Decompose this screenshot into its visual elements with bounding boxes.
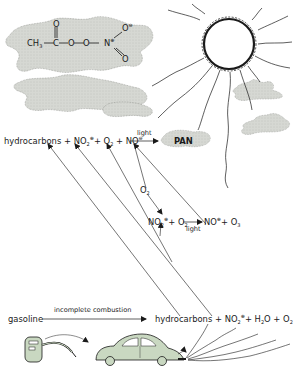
hydrocarbons-label: hydrocarbons bbox=[4, 136, 61, 146]
o2-label: O2 bbox=[283, 314, 293, 324]
middle-reaction-products: NO⊕+ O3 bbox=[204, 218, 241, 226]
exhaust-fumes-icon bbox=[178, 324, 290, 361]
gas-pump-icon bbox=[25, 335, 88, 362]
bottom-reaction-products: hydrocarbons + NO2⊕+ H2O + O2 bbox=[155, 315, 293, 323]
car-icon bbox=[96, 334, 186, 366]
pan-oxygen-2: O bbox=[83, 39, 90, 47]
pan-carbon: C bbox=[53, 39, 59, 47]
pan-oxygen-bottom: O bbox=[122, 55, 129, 63]
o2-label: O2 bbox=[104, 136, 114, 146]
pan-oxygen-1: O bbox=[68, 39, 75, 47]
pan-product-label: PAN bbox=[174, 137, 193, 145]
no-label: NO⊖ bbox=[126, 136, 143, 146]
no2-label: NO2⊕ bbox=[225, 314, 245, 324]
light-label: light bbox=[137, 130, 152, 137]
hydrocarbons-label: hydrocarbons bbox=[155, 314, 212, 324]
pan-oxygen-top: O⊖ bbox=[122, 24, 133, 32]
gasoline-label: gasoline bbox=[8, 315, 43, 323]
pan-ch3: CH3 bbox=[27, 39, 42, 47]
light-label: light bbox=[186, 226, 201, 233]
h2o-label: H2O bbox=[255, 314, 271, 324]
incomplete-combustion-label: incomplete combustion bbox=[54, 307, 131, 314]
o2-side-label: O2 bbox=[140, 186, 150, 194]
cloud-icon bbox=[233, 80, 290, 135]
top-reaction-reactants: hydrocarbons + NO2⊕+ O2 + NO⊖ bbox=[4, 137, 143, 145]
pan-nitrogen: N⊕ bbox=[104, 39, 114, 47]
middle-reaction-reactants: NO2⊕+ O2 bbox=[148, 218, 188, 226]
no2-label: NO2⊕ bbox=[74, 136, 94, 146]
pan-oxygen-double: O bbox=[53, 20, 60, 28]
